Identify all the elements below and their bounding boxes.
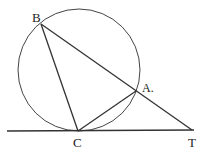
label-t: T xyxy=(188,135,196,150)
label-c: C xyxy=(73,135,82,150)
secant-bt xyxy=(41,24,192,130)
label-a: A. xyxy=(142,81,154,95)
label-b: B xyxy=(32,10,41,25)
circle xyxy=(18,9,140,131)
chord-bc xyxy=(41,24,78,131)
geometry-diagram: B A. C T xyxy=(0,0,206,152)
tangent-line xyxy=(7,130,194,131)
chord-ac xyxy=(78,91,136,131)
